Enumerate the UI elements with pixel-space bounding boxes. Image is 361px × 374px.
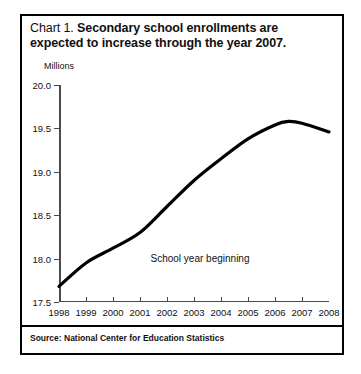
x-tick-label: 2001 xyxy=(129,307,150,318)
y-tick xyxy=(54,302,59,303)
x-tick-label: 2004 xyxy=(210,307,231,318)
y-tick-label: 19.5 xyxy=(33,123,52,134)
y-axis-label: Millions xyxy=(44,61,74,71)
x-axis-label-text: School year beginning xyxy=(151,253,250,264)
x-tick-label: 1998 xyxy=(48,307,69,318)
y-tick-label: 20.0 xyxy=(33,80,52,91)
x-axis-label: School year beginning xyxy=(22,253,342,264)
x-tick-label: 2007 xyxy=(291,307,312,318)
y-tick-label: 17.5 xyxy=(33,297,52,308)
x-tick-label: 2000 xyxy=(102,307,123,318)
x-tick-label: 2002 xyxy=(156,307,177,318)
y-tick-label: 18.5 xyxy=(33,210,52,221)
x-tick-label: 2008 xyxy=(318,307,339,318)
y-tick-label: 19.0 xyxy=(33,166,52,177)
source-note: Source: National Center for Education St… xyxy=(30,333,224,343)
x-tick-label: 2003 xyxy=(183,307,204,318)
x-tick-label: 2006 xyxy=(264,307,285,318)
chart-figure: Chart 1. Secondary school enrollments ar… xyxy=(20,14,344,355)
x-tick-label: 1999 xyxy=(75,307,96,318)
chart-title-lead: Chart 1. xyxy=(30,21,74,35)
chart-title: Chart 1. Secondary school enrollments ar… xyxy=(30,21,330,50)
x-tick-label: 2005 xyxy=(237,307,258,318)
enrollment-line-series xyxy=(59,85,329,302)
plot-area: 17.518.018.519.019.520.0 199819992000200… xyxy=(59,85,329,302)
source-bar: Source: National Center for Education St… xyxy=(22,325,342,353)
